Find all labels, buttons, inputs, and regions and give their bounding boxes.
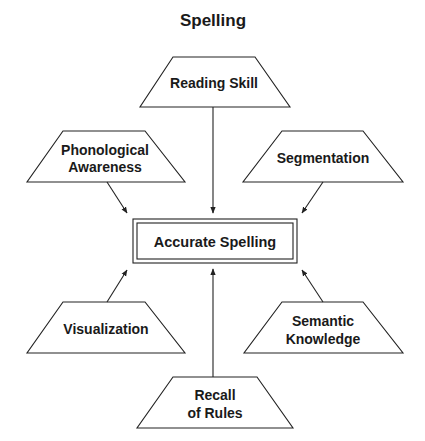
- factor-label-line-1: Phonological: [61, 142, 149, 158]
- factor-label-line-2: Awareness: [68, 159, 142, 175]
- center-outcome-box: Accurate Spelling: [133, 219, 297, 263]
- factor-label-line-2: of Rules: [187, 405, 242, 421]
- arrow-phonological-awareness: [107, 182, 127, 213]
- diagram-title: Spelling: [180, 11, 246, 30]
- factor-label-line-1: Semantic: [292, 313, 354, 329]
- arrow-segmentation: [302, 182, 323, 213]
- arrow-visualization: [107, 270, 127, 302]
- factor-label: Segmentation: [277, 150, 370, 166]
- factor-segmentation: Segmentation: [243, 131, 403, 182]
- arrow-semantic-knowledge: [302, 270, 323, 302]
- factor-reading-skill: Reading Skill: [140, 57, 290, 107]
- factor-semantic-knowledge: Semantic Knowledge: [244, 302, 403, 353]
- center-label: Accurate Spelling: [154, 234, 276, 250]
- factor-recall-of-rules: Recall of Rules: [137, 377, 293, 428]
- factor-phonological-awareness: Phonological Awareness: [27, 131, 185, 182]
- factor-label-line-1: Recall: [194, 387, 235, 403]
- factor-label-line-2: Knowledge: [286, 331, 361, 347]
- factor-visualization: Visualization: [27, 302, 185, 353]
- factor-label: Visualization: [63, 321, 148, 337]
- factor-label: Reading Skill: [170, 75, 258, 91]
- spelling-diagram: Spelling Reading Skill Phonological Awar…: [0, 0, 425, 441]
